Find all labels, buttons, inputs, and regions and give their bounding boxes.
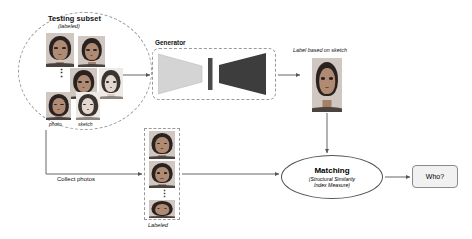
subset-ellipsis-top: ⋮ xyxy=(56,68,67,79)
collected-ellipsis: ⋮ xyxy=(160,190,169,199)
subset-photo-2 xyxy=(78,36,105,67)
generator-label: Generator xyxy=(155,39,186,46)
decoder-trapezoid xyxy=(219,53,266,95)
collected-gallery-caption: Labeled xyxy=(148,222,168,228)
matching-node: Matching (Structural Similarity Index Me… xyxy=(281,155,383,199)
collected-photo-1 xyxy=(149,131,175,159)
subset-sketch-3 xyxy=(99,68,123,99)
generated-caption: Label based on sketch xyxy=(293,47,347,53)
matching-subtitle-line2: Index Measure) xyxy=(314,182,350,188)
bottleneck-bar xyxy=(208,58,213,90)
generated-photo xyxy=(312,58,342,112)
arrow-subset-to-collect xyxy=(46,130,142,174)
generator-shapes xyxy=(158,52,270,96)
collect-photos-label: Collect photos xyxy=(57,176,95,182)
matching-title: Matching xyxy=(314,166,349,175)
subset-photo-1 xyxy=(46,33,74,67)
subset-photo-labeled xyxy=(46,92,71,120)
testing-subset-subtitle: (labeled) xyxy=(58,23,80,29)
sketch-caption: sketch xyxy=(78,121,92,127)
testing-subset-title: Testing subset xyxy=(48,14,101,23)
photo-caption: photo xyxy=(49,121,62,127)
collected-photo-3 xyxy=(149,200,175,218)
result-label: Who? xyxy=(426,173,444,180)
collected-photo-2 xyxy=(149,161,175,188)
encoder-trapezoid xyxy=(158,54,202,94)
result-box: Who? xyxy=(412,165,458,188)
subset-sketch-labeled xyxy=(76,92,100,120)
